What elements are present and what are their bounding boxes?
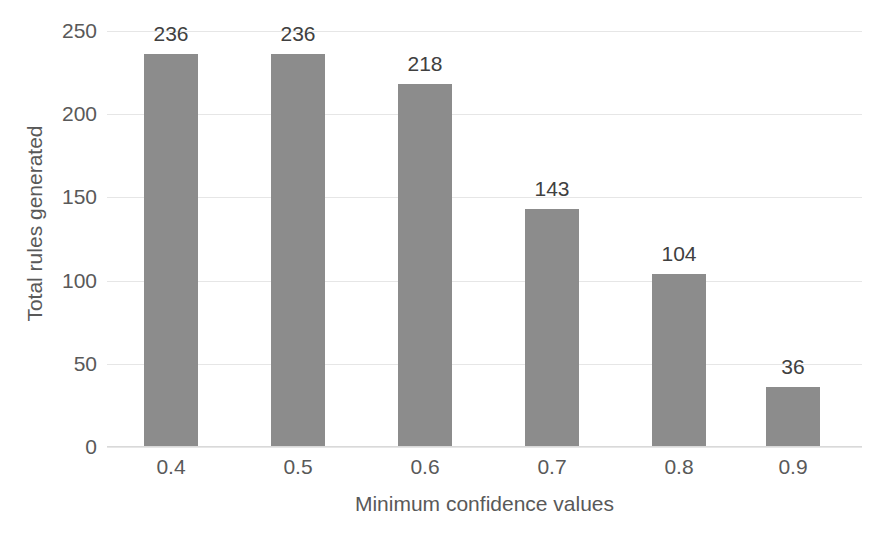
bar-group[interactable]: 236: [144, 31, 198, 447]
bar[interactable]: [398, 84, 452, 447]
x-axis-tick-label: 0.7: [537, 455, 566, 479]
y-axis-tick-label: 200: [11, 102, 107, 126]
bar-value-label: 236: [280, 23, 315, 44]
bar-chart: Total rules generated 050100150200250 23…: [0, 0, 873, 539]
bar-group[interactable]: 104: [652, 31, 706, 447]
x-axis-tick-label: 0.4: [156, 455, 185, 479]
x-axis-tick-label: 0.6: [410, 455, 439, 479]
bar-value-label: 236: [153, 23, 188, 44]
x-axis-title: Minimum confidence values: [107, 492, 862, 516]
gridline: [107, 447, 862, 448]
bar-value-label: 143: [534, 178, 569, 199]
y-axis-tick-label: 50: [11, 352, 107, 376]
bar[interactable]: [525, 209, 579, 447]
bar[interactable]: [766, 387, 820, 447]
bar-group[interactable]: 36: [766, 31, 820, 447]
y-axis-tick-labels: 050100150200250: [0, 0, 107, 539]
plot-area: 23623621814310436: [107, 31, 862, 447]
bar-value-label: 104: [661, 243, 696, 264]
x-axis-tick-labels: 0.40.50.60.70.80.9: [107, 455, 862, 487]
bar[interactable]: [144, 54, 198, 447]
bar[interactable]: [652, 274, 706, 447]
y-axis-tick-label: 100: [11, 269, 107, 293]
x-axis-tick-label: 0.5: [283, 455, 312, 479]
y-axis-tick-label: 0: [11, 435, 107, 459]
bar[interactable]: [271, 54, 325, 447]
bars: 23623621814310436: [107, 31, 862, 447]
bar-group[interactable]: 143: [525, 31, 579, 447]
bar-value-label: 36: [781, 356, 804, 377]
bar-group[interactable]: 236: [271, 31, 325, 447]
x-axis-tick-label: 0.9: [778, 455, 807, 479]
y-axis-tick-label: 150: [11, 185, 107, 209]
x-axis-line: [107, 446, 862, 447]
bar-value-label: 218: [407, 53, 442, 74]
bar-group[interactable]: 218: [398, 31, 452, 447]
y-axis-tick-label: 250: [11, 19, 107, 43]
x-axis-tick-label: 0.8: [664, 455, 693, 479]
